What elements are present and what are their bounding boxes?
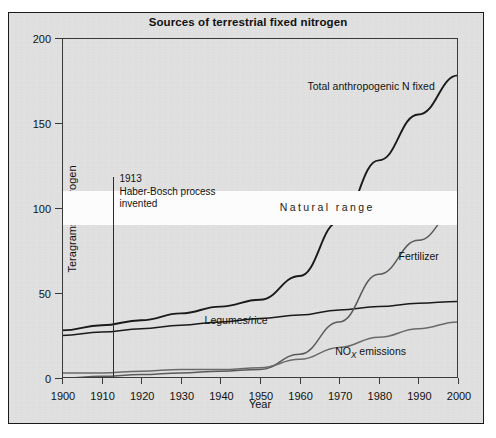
y-tick: 0 (55, 378, 62, 379)
y-tick: 100 (55, 208, 62, 209)
x-tick: 1920 (141, 378, 142, 384)
haber-bosch-marker-line (113, 177, 114, 378)
x-tick: 1990 (418, 378, 419, 384)
x-tick-label: 1960 (288, 390, 312, 402)
label-legumes-rice: Legumes/rice (205, 314, 268, 326)
y-tick-label: 0 (45, 373, 51, 385)
label-fertilizer: Fertilizer (399, 250, 439, 262)
x-tick-label: 2000 (447, 390, 471, 402)
x-tick: 2000 (458, 378, 459, 384)
x-tick-label: 1970 (328, 390, 352, 402)
x-tick-label: 1930 (170, 390, 194, 402)
haber-bosch-annotation-line-2: Haber-Bosch process (119, 186, 215, 199)
x-tick-label: 1910 (90, 390, 114, 402)
plot-area: Natural range 050100150200 1900191019201… (62, 38, 458, 378)
y-tick-label: 50 (39, 288, 51, 300)
y-tick-label: 150 (33, 118, 51, 130)
x-tick: 1940 (220, 378, 221, 384)
figure-root: Sources of terrestrial fixed nitrogen Te… (0, 0, 496, 438)
y-tick-label: 100 (33, 203, 51, 215)
haber-bosch-annotation-line-3: invented (119, 198, 215, 211)
x-tick: 1970 (339, 378, 340, 384)
y-tick: 150 (55, 123, 62, 124)
haber-bosch-annotation: 1913Haber-Bosch processinvented (119, 173, 215, 211)
x-tick: 1950 (260, 378, 261, 384)
x-tick-label: 1920 (130, 390, 154, 402)
x-tick-label: 1900 (51, 390, 75, 402)
x-tick: 1930 (181, 378, 182, 384)
haber-bosch-annotation-line-1: 1913 (119, 173, 215, 186)
x-tick-label: 1980 (368, 390, 392, 402)
x-tick: 1910 (102, 378, 103, 384)
x-tick: 1900 (62, 378, 63, 384)
label-nox-emissions: NOX emissions (335, 345, 406, 360)
y-tick: 200 (55, 38, 62, 39)
y-tick: 50 (55, 293, 62, 294)
y-tick-label: 200 (33, 33, 51, 45)
x-tick-label: 1940 (209, 390, 233, 402)
x-tick: 1980 (379, 378, 380, 384)
x-tick-label: 1950 (249, 390, 273, 402)
x-tick: 1960 (300, 378, 301, 384)
x-tick-label: 1990 (407, 390, 431, 402)
chart-title: Sources of terrestrial fixed nitrogen (0, 16, 496, 28)
label-total-anthropogenic: Total anthropogenic N fixed (308, 80, 435, 92)
